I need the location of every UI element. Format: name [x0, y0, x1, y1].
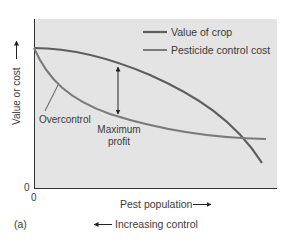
x-zero-label: 0: [31, 192, 37, 203]
y-axis-label: Value or cost: [11, 67, 22, 125]
overcontrol-label: Overcontrol: [39, 114, 91, 125]
increasing-control-label: Increasing control: [115, 218, 198, 230]
pest-control-chart: Value of crop Pesticide control cost Ove…: [0, 0, 294, 239]
legend-label-crop: Value of crop: [171, 26, 232, 38]
panel-label: (a): [14, 218, 27, 230]
y-axis-label-group: Value or cost: [11, 41, 22, 125]
y-zero-label: 0: [24, 182, 30, 193]
legend-label-cost: Pesticide control cost: [171, 44, 270, 56]
max-profit-label-line2: profit: [108, 136, 130, 147]
max-profit-label-line1: Maximum: [97, 124, 140, 135]
x-axis-label: Pest population: [120, 198, 193, 210]
